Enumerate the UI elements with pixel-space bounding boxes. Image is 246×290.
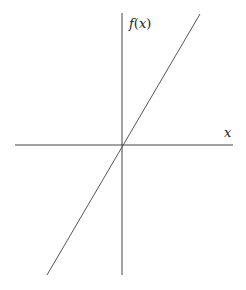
y-label-close-paren: ) bbox=[146, 16, 151, 31]
x-axis-label: x bbox=[224, 125, 231, 140]
function-plot bbox=[0, 0, 246, 290]
y-axis-label: f(x) bbox=[129, 16, 151, 31]
